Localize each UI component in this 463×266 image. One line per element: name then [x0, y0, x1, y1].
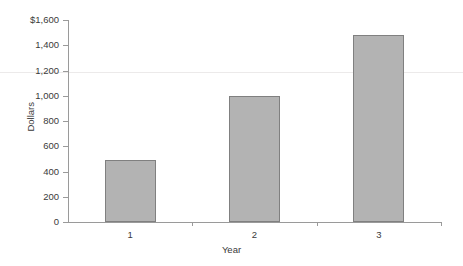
y-axis-title: Dollars: [26, 77, 36, 157]
x-axis-tick: [192, 222, 193, 226]
x-axis-tick-label: 1: [110, 230, 150, 240]
x-axis-line: [68, 222, 441, 223]
bar: [353, 35, 404, 222]
y-axis-tick-label: 1,200: [0, 66, 59, 76]
y-axis-tick-label: 400: [0, 167, 59, 177]
bar-chart-figure: 02004006008001,0001,2001,400$1,600 123 Y…: [0, 0, 463, 266]
y-axis-tick-label: 200: [0, 192, 59, 202]
x-axis-title: Year: [0, 245, 463, 255]
x-axis-end-tick: [441, 222, 442, 226]
y-axis-line: [68, 20, 69, 223]
y-axis-tick-label: 0: [0, 217, 59, 227]
x-axis-tick-label: 3: [359, 230, 399, 240]
y-axis-tick-label: $1,600: [0, 15, 59, 25]
y-axis-tick: [63, 20, 68, 21]
y-axis-tick: [63, 121, 68, 122]
y-axis-tick: [63, 197, 68, 198]
y-axis-tick: [63, 96, 68, 97]
y-axis-tick: [63, 45, 68, 46]
y-axis-tick: [63, 71, 68, 72]
bar: [105, 160, 156, 222]
x-axis-tick-label: 2: [235, 230, 275, 240]
y-axis-tick: [63, 222, 68, 223]
x-axis-tick: [317, 222, 318, 226]
bar: [229, 96, 280, 222]
y-axis-tick-label: 1,400: [0, 40, 59, 50]
y-axis-tick: [63, 172, 68, 173]
y-axis-tick: [63, 146, 68, 147]
